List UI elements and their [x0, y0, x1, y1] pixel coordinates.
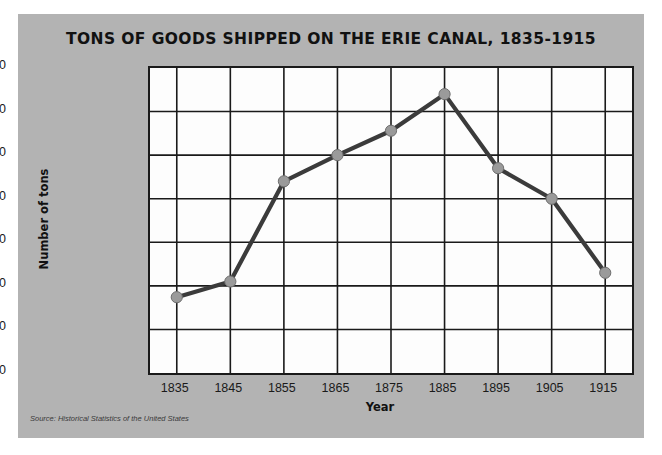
data-point-marker	[385, 125, 396, 136]
data-point-marker	[278, 176, 289, 187]
plot-area	[148, 66, 634, 375]
chart-title: TONS OF GOODS SHIPPED ON THE ERIE CANAL,…	[18, 30, 644, 48]
chart-figure: TONS OF GOODS SHIPPED ON THE ERIE CANAL,…	[18, 14, 644, 438]
y-tick-label: 1,500,000	[0, 232, 6, 246]
data-point-marker	[600, 267, 611, 278]
source-note: Source: Historical Statistics of the Uni…	[30, 414, 189, 423]
y-tick-label: 0	[0, 363, 6, 377]
data-point-marker	[225, 276, 236, 287]
y-tick-label: 500,000	[0, 319, 6, 333]
y-axis-title: Number of tons	[37, 149, 51, 289]
y-tick-label: 1,000,000	[0, 276, 6, 290]
data-point-marker	[493, 163, 504, 174]
x-tick-label: 1915	[568, 381, 638, 395]
y-tick-label: 2,000,000	[0, 189, 6, 203]
series-line	[177, 94, 605, 297]
data-point-marker	[439, 89, 450, 100]
y-tick-label: 2,500,000	[0, 145, 6, 159]
data-series-erie-canal-tons	[150, 68, 632, 373]
x-axis-title: Year	[130, 400, 630, 414]
data-point-marker	[171, 292, 182, 303]
data-point-marker	[332, 150, 343, 161]
y-tick-label: 3,000,000	[0, 102, 6, 116]
data-point-marker	[546, 193, 557, 204]
y-tick-label: 3,500,000	[0, 58, 6, 72]
